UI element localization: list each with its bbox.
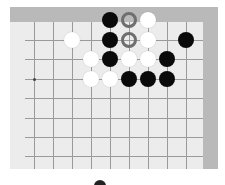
grid-line-horizontal <box>25 156 203 157</box>
white-stone[interactable] <box>140 32 156 48</box>
grid-line-vertical <box>53 22 54 169</box>
grid-line-horizontal <box>25 137 203 138</box>
white-stone[interactable] <box>83 51 99 67</box>
white-stone[interactable] <box>121 51 137 67</box>
black-stone[interactable] <box>159 51 175 67</box>
marked-point-icon[interactable] <box>121 32 137 48</box>
white-stone[interactable] <box>83 71 99 87</box>
black-stone[interactable] <box>102 32 118 48</box>
grid-line-horizontal <box>25 118 203 119</box>
white-stone[interactable] <box>140 51 156 67</box>
turn-indicator-icon <box>94 180 106 185</box>
white-stone[interactable] <box>102 71 118 87</box>
white-stone[interactable] <box>64 32 80 48</box>
black-stone[interactable] <box>178 32 194 48</box>
star-point <box>33 78 36 81</box>
grid-line-vertical <box>34 22 35 169</box>
black-stone[interactable] <box>159 71 175 87</box>
black-stone[interactable] <box>102 12 118 28</box>
grid-line-vertical <box>91 22 92 169</box>
marked-point-icon[interactable] <box>121 12 137 28</box>
black-stone[interactable] <box>121 71 137 87</box>
grid-line-horizontal <box>25 98 203 99</box>
white-stone[interactable] <box>140 12 156 28</box>
black-stone[interactable] <box>102 51 118 67</box>
grid-line-vertical <box>167 22 168 169</box>
black-stone[interactable] <box>140 71 156 87</box>
